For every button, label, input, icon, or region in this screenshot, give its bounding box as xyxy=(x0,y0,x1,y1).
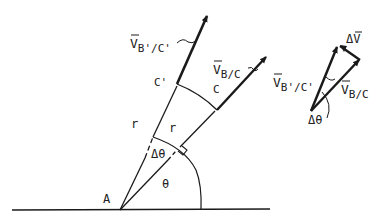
arc-cprime-c xyxy=(177,84,217,110)
radius-line-a-c-upper xyxy=(180,111,215,147)
label-v-b-c: VB/C xyxy=(213,62,241,81)
leader-v-bprime-cprime xyxy=(177,40,196,43)
label-v-bprime-cprime: VB'/C' xyxy=(130,36,171,55)
kinematics-diagram: VB'/C' VB/C C' C r r Δθ θ A ΔV VB'/C' VB… xyxy=(0,0,386,223)
tri-label-v-b-c: VB/C xyxy=(341,82,369,101)
ground-line xyxy=(12,209,270,210)
tri-v-bprime-cprime-arrow xyxy=(311,47,337,111)
tri-label-delta-v: ΔV xyxy=(346,32,360,46)
label-a: A xyxy=(103,192,111,206)
tri-label-v-bprime-cprime: VB'/C' xyxy=(273,75,314,94)
tri-label-delta-theta: Δθ xyxy=(308,113,322,127)
label-theta: θ xyxy=(162,177,169,191)
label-c-prime: C' xyxy=(154,76,167,89)
radius-line-a-c xyxy=(120,160,168,210)
velocity-arrow-bprime-cprime xyxy=(177,16,207,84)
label-c: C xyxy=(213,83,220,96)
velocity-arrow-b-c xyxy=(217,57,266,110)
tri-arc xyxy=(326,77,335,80)
tri-v-b-c-arrow xyxy=(311,60,359,111)
radius-line-a-cprime xyxy=(120,158,145,210)
label-delta-theta: Δθ xyxy=(151,147,165,161)
tri-leader-delta-theta xyxy=(322,92,329,118)
label-r-outer: r xyxy=(131,117,138,131)
label-r-inner: r xyxy=(169,121,176,135)
radius-line-a-c-dashed xyxy=(168,151,176,160)
